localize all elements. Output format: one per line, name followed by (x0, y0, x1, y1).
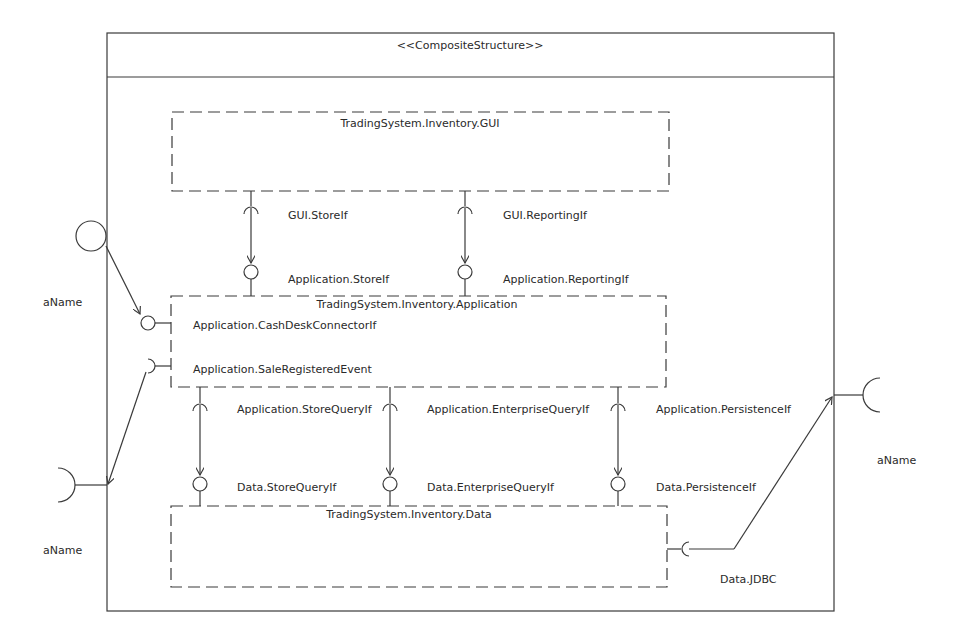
external-port-required-bottom-left[interactable] (58, 468, 107, 502)
label-application-persistenceif: Application.PersistenceIf (656, 403, 791, 416)
label-application-storequeryif: Application.StoreQueryIf (237, 403, 372, 416)
port-cashdeskconnectorif[interactable] (141, 316, 171, 330)
part-name-data: TradingSystem.Inventory.Data (326, 508, 492, 521)
label-gui-storeif: GUI.StoreIf (288, 209, 348, 222)
composite-structure-diagram: <<CompositeStructure>> TradingSystem.Inv… (0, 0, 963, 639)
connector-persistenceif[interactable] (611, 387, 625, 506)
external-port-label-right: aName (877, 454, 916, 467)
label-data-storequeryif: Data.StoreQueryIf (237, 481, 336, 494)
connector-enterprisequeryif[interactable] (383, 387, 397, 506)
label-data-jdbc: Data.JDBC (720, 573, 777, 586)
connector-gui-reportingif[interactable] (458, 191, 472, 296)
connector-gui-storeif[interactable] (244, 191, 258, 296)
label-data-enterprisequeryif: Data.EnterpriseQueryIf (427, 481, 554, 494)
label-gui-reportingif: GUI.ReportingIf (503, 209, 587, 222)
delegation-bottom-left[interactable] (108, 372, 146, 484)
external-port-provided-top-left[interactable] (76, 221, 106, 251)
port-label-cashdeskconnectorif: Application.CashDeskConnectorIf (193, 319, 376, 332)
part-name-gui: TradingSystem.Inventory.GUI (340, 117, 499, 130)
external-port-label-top-left: aName (43, 296, 82, 309)
external-port-label-bottom-left: aName (43, 544, 82, 557)
connector-storequeryif[interactable] (193, 387, 207, 506)
frame-stereotype: <<CompositeStructure>> (397, 39, 544, 52)
label-application-reportingif: Application.ReportingIf (503, 273, 629, 286)
label-application-enterprisequeryif: Application.EnterpriseQueryIf (427, 403, 589, 416)
port-data-jdbc[interactable] (667, 542, 734, 556)
port-label-saleregisteredevent: Application.SaleRegisteredEvent (193, 363, 372, 376)
delegation-right-jdbc[interactable] (734, 397, 832, 549)
part-name-application: TradingSystem.Inventory.Application (317, 298, 518, 311)
label-application-storeif: Application.StoreIf (288, 273, 389, 286)
diagram-lines (0, 0, 963, 639)
external-port-required-right[interactable] (834, 378, 880, 412)
port-saleregisteredevent[interactable] (148, 359, 171, 373)
delegation-top-left[interactable] (106, 246, 140, 314)
label-data-persistenceif: Data.PersistenceIf (656, 481, 756, 494)
